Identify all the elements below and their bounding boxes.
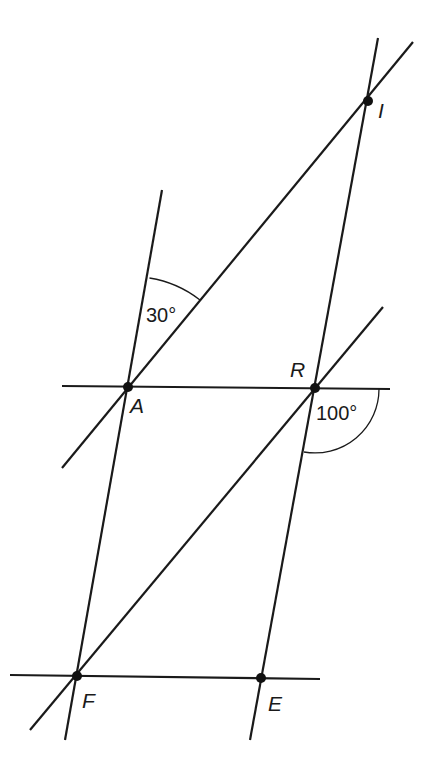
angle-arc-a: [150, 278, 201, 300]
line-ar: [62, 386, 390, 389]
point-i: [363, 96, 373, 106]
label-f: F: [82, 690, 95, 711]
line-ai: [62, 42, 413, 468]
line-fe: [10, 675, 320, 679]
point-r: [310, 383, 320, 393]
label-i: I: [378, 100, 384, 121]
point-a: [123, 382, 133, 392]
angle-label-r: 100°: [316, 403, 357, 423]
angle-label-a: 30°: [146, 305, 176, 325]
point-f: [72, 671, 82, 681]
label-e: E: [268, 693, 282, 714]
line-fr: [30, 307, 383, 730]
point-e: [256, 673, 266, 683]
label-r: R: [290, 359, 305, 380]
line-af: [65, 190, 162, 740]
geometry-diagram: [0, 0, 426, 777]
label-a: A: [130, 395, 144, 416]
